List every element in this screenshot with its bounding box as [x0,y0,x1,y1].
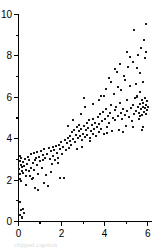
data-point [50,171,52,173]
data-point [145,104,147,106]
data-point [108,122,110,124]
data-point [23,212,25,214]
tick-labels-group: 02468100246 [1,9,151,239]
data-point [53,149,55,151]
data-point [65,149,67,151]
data-point [28,170,30,172]
data-point [23,165,25,167]
data-point [76,126,78,128]
data-point [136,67,138,69]
data-point [138,118,140,120]
data-point [67,125,69,127]
data-point [81,146,83,148]
data-point [103,95,105,97]
data-point [25,175,27,177]
data-point [74,141,76,143]
data-point [78,130,80,132]
x-tick-label: 4 [102,228,108,239]
data-point [99,113,101,115]
data-point [37,189,39,191]
data-point [37,173,39,175]
data-point [49,158,51,160]
data-point [129,56,131,58]
data-point [138,112,140,114]
data-point [108,77,110,79]
data-point [101,120,103,122]
data-point [94,122,96,124]
y-tick-label: 0 [6,216,12,227]
data-point [33,169,35,171]
data-point [142,126,144,128]
data-point [62,146,64,148]
data-point [146,109,148,111]
data-point [77,137,79,139]
data-point [58,144,60,146]
data-point [139,72,141,74]
data-point [63,177,65,179]
data-point [19,214,21,216]
data-point [35,157,37,159]
data-point [56,152,58,154]
data-point [92,133,94,135]
data-point [144,107,146,109]
data-point [109,112,111,114]
data-point [71,131,73,133]
data-point [20,180,22,182]
data-point [110,104,112,106]
data-point [98,123,100,125]
data-point [29,175,31,177]
data-point [146,100,148,102]
data-point [144,57,146,59]
data-point [100,95,102,97]
scatter-plot-figure: 02468100246 clipped caption [0,0,156,248]
data-point [61,153,63,155]
data-point [76,148,78,150]
data-point [98,131,100,133]
data-point [73,129,75,131]
data-point [32,162,34,164]
data-point [80,113,82,115]
plot-canvas: 02468100246 [0,0,156,248]
data-point [132,104,134,106]
data-point [117,86,119,88]
data-point [119,63,121,65]
data-point [78,124,80,126]
data-point [122,108,124,110]
data-point [30,153,32,155]
data-point [92,103,94,105]
data-point [120,89,122,91]
data-point [127,66,129,68]
data-point [123,75,125,77]
data-point [105,88,107,90]
data-point [19,201,21,203]
data-point [84,106,86,108]
data-point [114,109,116,111]
data-point [75,134,77,136]
data-markers-group [18,23,148,218]
data-point [72,138,74,140]
data-point [69,135,71,137]
data-point [106,126,108,128]
data-point [19,173,21,175]
y-tick-label: 6 [6,92,12,103]
data-point [114,119,116,121]
data-point [141,129,143,131]
data-point [51,163,53,165]
data-point [137,106,139,108]
data-point [90,130,92,132]
data-point [120,112,122,114]
data-point [110,81,112,83]
data-point [25,169,27,171]
data-point [89,137,91,139]
data-point [106,132,108,134]
data-point [98,99,100,101]
data-point [82,133,84,135]
data-point [20,164,22,166]
data-point [52,146,54,148]
data-point [30,167,32,169]
data-point [139,103,141,105]
data-point [38,156,40,158]
data-point [111,130,113,132]
data-point [116,71,118,73]
data-point [104,118,106,120]
